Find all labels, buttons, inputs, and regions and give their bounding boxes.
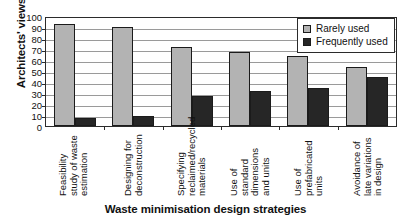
- x-tick-label: Feasibility study of waste estimation: [59, 130, 91, 196]
- y-tick-label: 60: [31, 57, 42, 66]
- y-tick-label: 0: [37, 123, 42, 132]
- x-tick-label: Use of standard dimensions and units: [229, 130, 271, 196]
- x-label-cell: Avoidance of late variations in design: [338, 130, 397, 196]
- y-tick-label: 10: [31, 112, 42, 121]
- x-label-cell: Designing for deconstruction: [104, 130, 163, 196]
- bar-rarely-used: [287, 56, 308, 126]
- y-tick-label: 40: [31, 79, 42, 88]
- bar-chart-figure: Architects' views (%) 100908070605040302…: [0, 0, 411, 224]
- x-label-cell: Feasibility study of waste estimation: [45, 130, 104, 196]
- y-tick-label: 30: [31, 90, 42, 99]
- bar-group: [104, 18, 162, 126]
- bar-frequently-used: [133, 116, 154, 126]
- legend-label: Frequently used: [316, 37, 388, 47]
- bar-frequently-used: [75, 118, 96, 126]
- x-label-cell: Use of prefabricated units: [280, 130, 339, 196]
- y-tick-label: 20: [31, 101, 42, 110]
- legend-swatch: [303, 38, 311, 46]
- y-tick-label: 90: [31, 24, 42, 33]
- bar-rarely-used: [171, 47, 192, 126]
- x-tick-label: Designing for deconstruction: [122, 130, 143, 196]
- y-tick-label: 100: [26, 13, 42, 22]
- bar-frequently-used: [308, 88, 329, 127]
- bar-rarely-used: [346, 67, 367, 126]
- bar-frequently-used: [367, 77, 388, 126]
- bar-group: [163, 18, 221, 126]
- legend-item: Frequently used: [303, 35, 388, 48]
- bar-frequently-used: [250, 91, 271, 126]
- bar-rarely-used: [54, 24, 75, 126]
- legend-swatch: [303, 25, 311, 33]
- legend-label: Rarely used: [316, 24, 369, 34]
- legend-item: Rarely used: [303, 22, 388, 35]
- x-axis-title: Waste minimisation design strategies: [0, 203, 411, 215]
- chart-legend: Rarely usedFrequently used: [297, 18, 395, 53]
- y-tick-label: 70: [31, 46, 42, 55]
- bar-group: [46, 18, 104, 126]
- y-tick-label: 50: [31, 68, 42, 77]
- y-tick-label: 80: [31, 35, 42, 44]
- x-tick-label: Avoidance of late variations in design: [352, 130, 384, 196]
- x-axis-category-labels: Feasibility study of waste estimationDes…: [45, 130, 397, 196]
- y-axis-tick-labels: 1009080706050403020100: [18, 12, 42, 132]
- x-label-cell: Specifying reclaimed/recycled materials: [162, 130, 221, 196]
- bar-rarely-used: [229, 52, 250, 126]
- bar-rarely-used: [112, 27, 133, 126]
- x-tick-label: Specifying reclaimed/recycled materials: [176, 130, 208, 196]
- bar-group: [221, 18, 279, 126]
- x-tick-label: Use of prefabricated units: [293, 130, 325, 196]
- x-label-cell: Use of standard dimensions and units: [221, 130, 280, 196]
